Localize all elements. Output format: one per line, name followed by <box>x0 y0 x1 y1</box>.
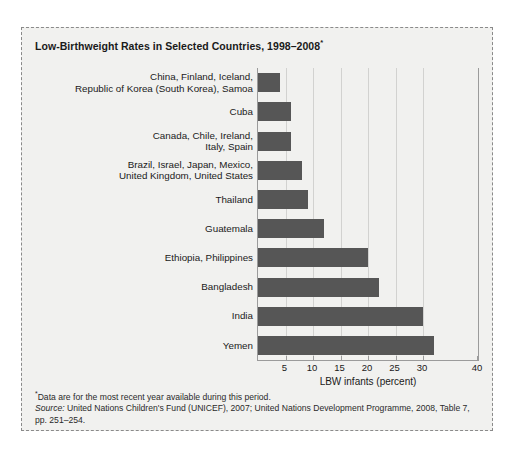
bar <box>258 336 434 355</box>
bar-row <box>258 190 478 209</box>
x-tick-label: 20 <box>362 362 373 373</box>
category-label: Bangladesh <box>38 281 253 293</box>
category-label: China, Finland, Iceland, Republic of Kor… <box>38 71 253 94</box>
plot-area <box>257 68 479 361</box>
tick-5 <box>286 356 287 361</box>
bar <box>258 73 280 92</box>
footnote-source: Source: United Nations Children's Fund (… <box>35 403 481 426</box>
bar <box>258 102 291 121</box>
category-label: Canada, Chile, Ireland, Italy, Spain <box>38 130 253 153</box>
category-label: Yemen <box>38 340 253 352</box>
bar-row <box>258 73 478 92</box>
x-tick-label: 10 <box>307 362 318 373</box>
figure-title: Low-Birthweight Rates in Selected Countr… <box>35 38 323 52</box>
tick-15 <box>341 356 342 361</box>
bar <box>258 132 291 151</box>
category-label: Brazil, Israel, Japan, Mexico, United Ki… <box>38 159 253 182</box>
bar-row <box>258 132 478 151</box>
footnotes: *Data are for the most recent year avail… <box>35 388 481 426</box>
bar-row <box>258 248 478 267</box>
footnote-note: *Data are for the most recent year avail… <box>35 388 481 403</box>
bar-row <box>258 278 478 297</box>
tick-40 <box>477 356 478 361</box>
x-tick-label: 5 <box>282 362 287 373</box>
tick-20 <box>368 356 369 361</box>
figure-title-text: Low-Birthweight Rates in Selected Countr… <box>35 40 320 52</box>
footnote-source-text: United Nations Children's Fund (UNICEF),… <box>35 403 470 425</box>
figure-title-asterisk: * <box>320 38 323 47</box>
tick-30 <box>423 356 424 361</box>
x-tick-label: 40 <box>472 362 483 373</box>
bar <box>258 278 379 297</box>
x-tick-label: 25 <box>389 362 400 373</box>
category-label: Ethiopia, Philippines <box>38 252 253 264</box>
figure-container: Low-Birthweight Rates in Selected Countr… <box>21 27 493 431</box>
bar-row <box>258 219 478 238</box>
footnote-note-text: Data are for the most recent year availa… <box>38 392 271 402</box>
footnote-source-label: Source: <box>35 403 65 413</box>
x-tick-label: 30 <box>417 362 428 373</box>
category-label: Cuba <box>38 106 253 118</box>
bar <box>258 307 423 326</box>
bar-chart: LBW infants (percent) 5101520253040China… <box>35 66 481 384</box>
bar <box>258 161 302 180</box>
tick-10 <box>313 356 314 361</box>
bar-row <box>258 102 478 121</box>
bar <box>258 248 368 267</box>
x-axis-title: LBW infants (percent) <box>257 376 479 387</box>
bar-row <box>258 336 478 355</box>
bar <box>258 190 308 209</box>
category-label: India <box>38 310 253 322</box>
tick-25 <box>396 356 397 361</box>
category-label: Thailand <box>38 194 253 206</box>
bar <box>258 219 324 238</box>
category-label: Guatemala <box>38 223 253 235</box>
x-tick-label: 15 <box>334 362 345 373</box>
bar-row <box>258 161 478 180</box>
bar-row <box>258 307 478 326</box>
